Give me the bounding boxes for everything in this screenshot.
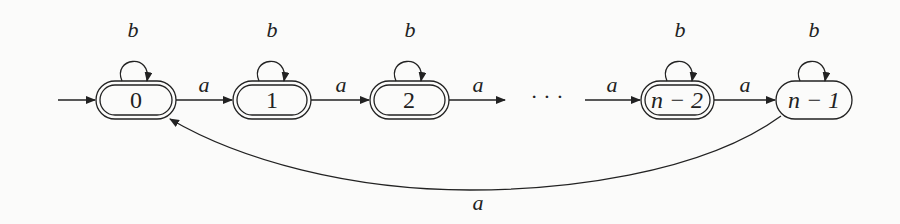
svg-text:a: a [740,72,751,97]
state-0: 0 b [96,17,176,119]
state-0-label: 0 [130,87,142,113]
state-2: 2 b [370,17,449,119]
state-n-minus-1: n − 1 b [776,17,852,119]
svg-text:a: a [473,72,484,97]
transition-n-1-0: a [170,116,781,215]
svg-text:a: a [607,72,618,97]
state-1: 1 b [233,17,311,119]
loop-label-n-2: b [675,17,686,42]
svg-text:a: a [199,72,210,97]
state-n-1-label: n − 1 [788,87,840,113]
state-1-label: 1 [266,87,278,113]
state-n-minus-2: n − 2 b [641,17,714,119]
transition-n-2-n-1: a [714,72,775,100]
loop-label-0: b [128,17,139,42]
loop-label-1: b [267,17,278,42]
loop-label-2: b [405,17,416,42]
state-n-2-label: n − 2 [651,87,703,113]
automaton-diagram: 0 b 1 b 2 b n − 2 b [0,0,900,224]
svg-text:a: a [336,72,347,97]
svg-text:a: a [473,190,484,215]
transition-2-ellipsis: a [449,72,505,100]
automaton-svg: 0 b 1 b 2 b n − 2 b [0,0,900,224]
ellipsis: · · · [531,84,564,109]
state-2-label: 2 [403,87,415,113]
transition-1-2: a [311,72,369,100]
transition-0-1: a [176,72,232,100]
transition-ellipsis-n-2: a [585,72,640,100]
loop-label-n-1: b [809,17,820,42]
